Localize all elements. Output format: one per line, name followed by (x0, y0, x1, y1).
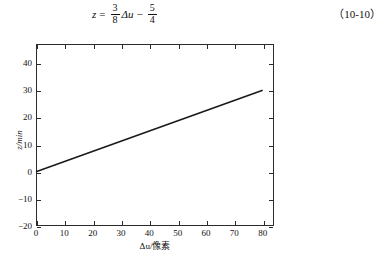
equation-minus: − (136, 9, 142, 20)
equation-variable-delta-u: Δu (122, 9, 134, 20)
fraction-denominator: 4 (148, 14, 157, 26)
equation-number: （10-10） (333, 5, 381, 21)
line-chart: Δu/像素 z/min 01020304050607080403020100−1… (0, 34, 391, 261)
equation-lhs: z (92, 9, 96, 20)
y-axis-tick-label: −10 (14, 194, 32, 204)
x-axis-tick-label: 60 (202, 228, 211, 238)
y-axis-tick-label: 0 (14, 167, 32, 177)
x-axis-tick-label: 20 (88, 228, 97, 238)
equation-fraction-three-eighths: 3 8 (111, 3, 120, 25)
x-axis-tick-label: 80 (258, 228, 267, 238)
y-axis-tick (269, 227, 273, 228)
data-line-series (36, 44, 274, 226)
series-polyline (36, 90, 263, 171)
y-axis-tick-label: 30 (14, 85, 32, 95)
x-axis-tick-label: 10 (60, 228, 69, 238)
fraction-numerator: 5 (148, 3, 157, 14)
x-axis-tick-label: 70 (230, 228, 239, 238)
x-axis-tick-label: 0 (34, 228, 39, 238)
equation-row: z = 3 8 Δu − 5 4 （10-10） (0, 0, 391, 34)
equation-fraction-five-fourths: 5 4 (148, 3, 157, 25)
x-axis-tick-label: 30 (117, 228, 126, 238)
y-axis-tick-label: 40 (14, 58, 32, 68)
equation-equals: = (99, 9, 105, 20)
x-axis-tick-label: 50 (173, 228, 182, 238)
y-axis-tick-label: 20 (14, 112, 32, 122)
fraction-numerator: 3 (111, 3, 120, 14)
y-axis-tick-label: −20 (14, 221, 32, 231)
x-axis-title: Δu/像素 (140, 239, 171, 252)
x-axis-tick-label: 40 (145, 228, 154, 238)
fraction-denominator: 8 (111, 14, 120, 26)
y-axis-tick-label: 10 (14, 140, 32, 150)
equation-expression: z = 3 8 Δu − 5 4 (92, 3, 159, 25)
